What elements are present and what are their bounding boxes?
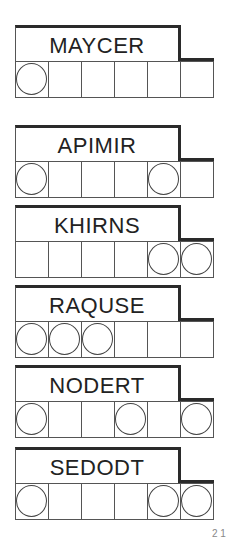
answer-cell-circled[interactable] (148, 242, 181, 278)
answer-cell[interactable] (148, 62, 181, 98)
answer-cell[interactable] (115, 242, 148, 278)
answer-cell-circled[interactable] (148, 162, 181, 198)
answer-cells (15, 161, 214, 198)
answer-cell-circled[interactable] (82, 322, 115, 358)
answer-cell[interactable] (115, 322, 148, 358)
answer-cell[interactable] (115, 162, 148, 198)
answer-cell-circled[interactable] (148, 484, 181, 520)
answer-cells (15, 401, 214, 438)
answer-cells (15, 321, 214, 358)
jumble-word-1: MAYCER (15, 25, 214, 98)
answer-cell[interactable] (181, 62, 214, 98)
answer-cell-circled[interactable] (181, 402, 214, 438)
scrambled-word: MAYCER (49, 30, 145, 59)
scrambled-word: SEDODT (50, 452, 145, 481)
answer-cells (15, 483, 214, 520)
scrambled-word-box: NODERT (15, 365, 181, 401)
answer-cell[interactable] (49, 484, 82, 520)
jumble-word-5: NODERT (15, 365, 214, 438)
answer-cell-circled[interactable] (16, 402, 49, 438)
scrambled-word: NODERT (49, 370, 145, 399)
jumble-word-3: KHIRNS (15, 205, 214, 278)
scrambled-word: APIMIR (58, 130, 137, 159)
jumble-word-2: APIMIR (15, 125, 214, 198)
page-corner-text: 2 1 (212, 528, 226, 539)
answer-cell[interactable] (49, 242, 82, 278)
scrambled-word-box: RAQUSE (15, 285, 181, 321)
answer-cell-circled[interactable] (115, 402, 148, 438)
answer-cell-circled[interactable] (49, 322, 82, 358)
scrambled-word: RAQUSE (49, 290, 145, 319)
answer-cell-circled[interactable] (16, 322, 49, 358)
scrambled-word-box: MAYCER (15, 25, 181, 61)
answer-cell[interactable] (181, 162, 214, 198)
answer-cell[interactable] (148, 322, 181, 358)
answer-cells (15, 61, 214, 98)
answer-cell[interactable] (49, 402, 82, 438)
answer-cell[interactable] (82, 402, 115, 438)
scrambled-word-box: SEDODT (15, 447, 181, 483)
scrambled-word: KHIRNS (54, 210, 140, 239)
answer-cell[interactable] (82, 162, 115, 198)
answer-cell-circled[interactable] (16, 484, 49, 520)
answer-cell[interactable] (16, 242, 49, 278)
answer-cell[interactable] (148, 402, 181, 438)
answer-cell[interactable] (115, 484, 148, 520)
answer-cell[interactable] (49, 62, 82, 98)
jumble-word-6: SEDODT (15, 447, 214, 520)
answer-cell[interactable] (82, 62, 115, 98)
answer-cell[interactable] (49, 162, 82, 198)
answer-cell[interactable] (115, 62, 148, 98)
answer-cells (15, 241, 214, 278)
answer-cell-circled[interactable] (181, 484, 214, 520)
jumble-word-4: RAQUSE (15, 285, 214, 358)
answer-cell-circled[interactable] (181, 242, 214, 278)
scrambled-word-box: KHIRNS (15, 205, 181, 241)
answer-cell[interactable] (181, 322, 214, 358)
answer-cell-circled[interactable] (16, 62, 49, 98)
scrambled-word-box: APIMIR (15, 125, 181, 161)
answer-cell[interactable] (82, 242, 115, 278)
answer-cell-circled[interactable] (16, 162, 49, 198)
answer-cell[interactable] (82, 484, 115, 520)
